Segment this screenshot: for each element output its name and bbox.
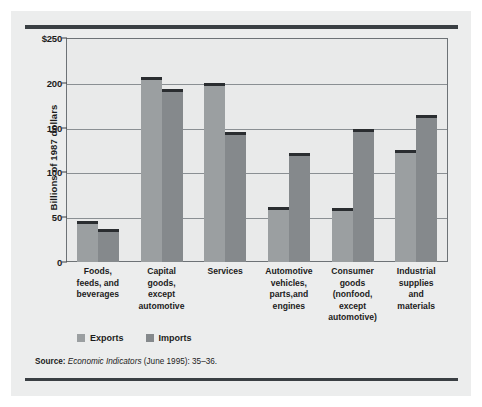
- bar-imports: [416, 115, 437, 262]
- bar-cap: [289, 153, 310, 156]
- source-note: Source: Economic Indicators (June 1995):…: [35, 357, 217, 366]
- bar-cap: [141, 77, 162, 80]
- y-axis-tick-label: $250: [24, 33, 62, 44]
- legend: Exports Imports: [77, 333, 192, 343]
- y-axis-tick-label: 200: [24, 77, 62, 88]
- bar-cap: [204, 83, 225, 86]
- bar-cap: [98, 229, 119, 232]
- bar-cap: [353, 129, 374, 132]
- bar-cap: [268, 207, 289, 210]
- legend-item-imports: Imports: [146, 333, 192, 343]
- bar-cap: [225, 132, 246, 135]
- bar-group: [193, 38, 257, 262]
- top-rule: [25, 25, 458, 29]
- bar-imports: [162, 89, 183, 262]
- source-detail: (June 1995): 35–36.: [144, 357, 217, 366]
- bar-exports: [204, 83, 225, 262]
- bar-group: [321, 38, 385, 262]
- bar-group: [130, 38, 194, 262]
- x-axis-category-label: Consumergoods(nonfood,exceptautomotive): [321, 266, 385, 324]
- y-axis-tick-label: 150: [24, 122, 62, 133]
- bar-exports: [77, 221, 98, 262]
- bar-group: [66, 38, 130, 262]
- bar-group: [257, 38, 321, 262]
- bar-cap: [77, 221, 98, 224]
- x-axis-category-label: Services: [193, 266, 257, 324]
- x-axis-category-label: Automotivevehicles,parts,andengines: [257, 266, 321, 324]
- bar-imports: [353, 129, 374, 263]
- source-label: Source:: [35, 357, 65, 366]
- bar-cap: [416, 115, 437, 118]
- source-title: Economic Indicators: [68, 357, 142, 366]
- x-axis-category-label: Capitalgoods,exceptautomotive: [130, 266, 194, 324]
- bar-exports: [141, 77, 162, 262]
- legend-item-exports: Exports: [77, 333, 124, 343]
- bar-cap: [395, 150, 416, 153]
- legend-label-exports: Exports: [90, 333, 124, 343]
- bar-cap: [162, 89, 183, 92]
- bar-cap: [332, 208, 353, 211]
- y-axis-tick-label: 50: [24, 212, 62, 223]
- bottom-rule: [25, 378, 458, 381]
- bar-groups: [66, 38, 448, 262]
- legend-swatch-exports: [77, 334, 85, 342]
- legend-swatch-imports: [146, 334, 154, 342]
- bar-imports: [98, 229, 119, 262]
- y-axis-tick-label: 0: [24, 257, 62, 268]
- x-axis-category-label: Industrialsuppliesandmaterials: [384, 266, 448, 324]
- bar-imports: [289, 153, 310, 262]
- y-axis: $250200150100500: [20, 38, 62, 262]
- bar-imports: [225, 132, 246, 262]
- bar-exports: [395, 150, 416, 262]
- bar-group: [384, 38, 448, 262]
- bar-exports: [268, 207, 289, 262]
- x-axis-labels: Foods,feeds, andbeveragesCapitalgoods,ex…: [66, 266, 448, 324]
- figure-container: Billions of 1987 dollars $25020015010050…: [0, 0, 482, 407]
- legend-label-imports: Imports: [159, 333, 192, 343]
- x-axis-category-label: Foods,feeds, andbeverages: [66, 266, 130, 324]
- bar-exports: [332, 208, 353, 262]
- y-axis-tick-label: 100: [24, 167, 62, 178]
